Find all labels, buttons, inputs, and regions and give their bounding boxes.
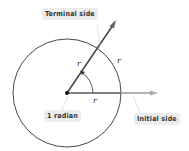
terminal-arrowhead-icon [110,20,117,29]
initial-side-label: Initial side [134,113,180,125]
center-point [65,91,69,95]
radius-label-initial: r [93,96,98,105]
initial-arrowhead-icon [150,91,158,96]
terminal-side-ray [67,25,113,93]
terminal-side-label: Terminal side [42,8,98,20]
radian-diagram: r r r [0,0,189,151]
arc-length-label: r [117,56,122,65]
angle-arc [81,72,93,93]
radius-label-terminal: r [77,59,82,68]
angle-label: 1 radian [44,110,81,122]
